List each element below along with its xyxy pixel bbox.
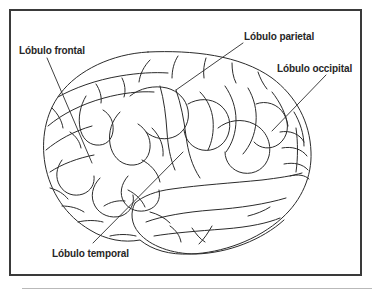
- label-lobulo-frontal: Lóbulo frontal: [19, 45, 85, 57]
- frontal-fold-f: [142, 160, 160, 182]
- leader-line-parietal: [176, 43, 243, 90]
- frontal-short-5: [78, 221, 103, 223]
- mid-fold-a: [130, 87, 188, 139]
- leader-line-temporal: [93, 152, 183, 243]
- occipital-fold-a: [280, 131, 304, 142]
- figure-page: Lóbulo frontal Lóbulo parietal Lóbulo oc…: [0, 0, 374, 292]
- superior-gyrus-2: [172, 56, 178, 78]
- label-lobulo-occipital: Lóbulo occipital: [277, 63, 352, 75]
- superior-gyrus-1: [139, 60, 150, 82]
- superior-gyrus-4: [232, 63, 236, 83]
- superior-gyrus-3: [204, 58, 206, 78]
- frontal-fold-b: [109, 112, 150, 165]
- cerebrum-outline: [44, 52, 312, 255]
- lateral-sulcus: [135, 173, 302, 203]
- superior-gyrus-5: [258, 72, 267, 89]
- frontal-short-6: [104, 201, 125, 206]
- frontal-fold-d: [92, 178, 133, 217]
- frontal-gyrus-1: [58, 73, 168, 97]
- label-lobulo-temporal: Lóbulo temporal: [52, 248, 129, 260]
- temporal-detail-5: [248, 207, 270, 216]
- temporal-detail-3: [199, 226, 212, 244]
- page-rule: [22, 288, 372, 289]
- occipital-gyrus-2: [294, 112, 304, 146]
- mid-fold-c: [152, 128, 163, 156]
- orbital-detail-1: [110, 235, 136, 237]
- parietal-gyrus-2: [225, 86, 236, 152]
- label-lobulo-parietal: Lóbulo parietal: [244, 31, 314, 43]
- frontal-fold-a: [79, 96, 113, 145]
- occipital-fold-b: [282, 147, 307, 156]
- frontal-short-1: [52, 108, 63, 128]
- occipital-fold-d: [290, 175, 309, 179]
- frontal-gyrus-4: [50, 155, 94, 172]
- precentral-sulcus: [160, 86, 175, 170]
